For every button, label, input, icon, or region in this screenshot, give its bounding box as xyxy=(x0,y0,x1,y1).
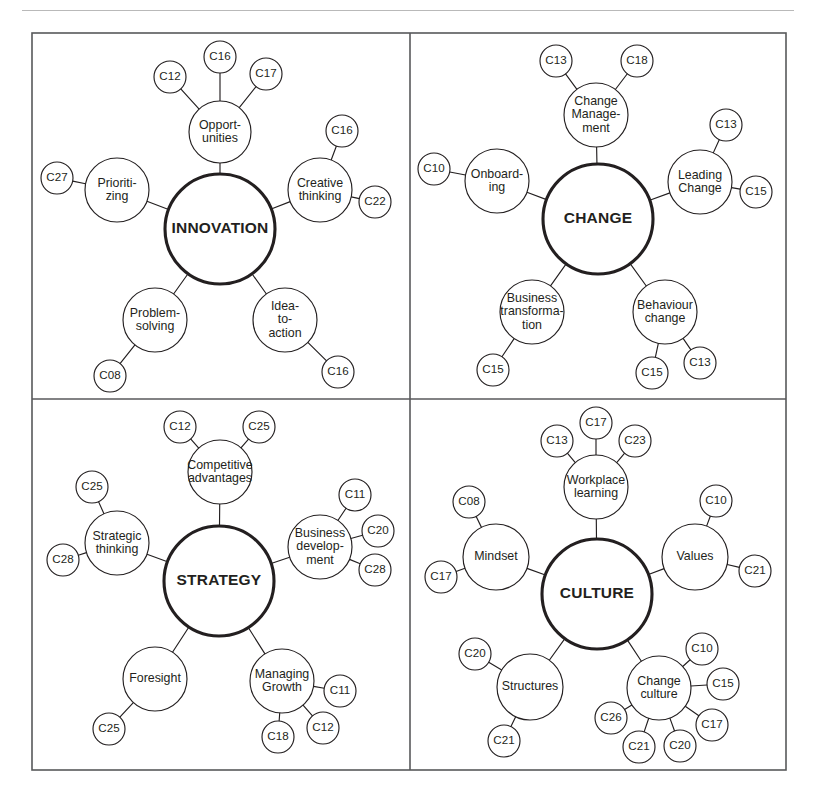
leaf-node-culture-4-0[interactable]: C08 xyxy=(453,486,485,518)
leaf-node-strategy-2-2[interactable]: C18 xyxy=(262,721,294,753)
leaf-node-innovation-2-0-label-line: C16 xyxy=(327,364,348,377)
branch-node-change-2-label-line: Behaviour xyxy=(637,298,693,312)
hub-node-strategy-label: STRATEGY xyxy=(177,571,262,588)
leaf-node-strategy-1-1[interactable]: C20 xyxy=(362,515,394,547)
leaf-node-culture-0-2[interactable]: C23 xyxy=(619,425,651,457)
branch-node-strategy-1[interactable]: Businessdevelop-ment xyxy=(288,515,352,579)
leaf-node-change-0-0[interactable]: C13 xyxy=(540,45,572,77)
leaf-node-culture-3-0-label: C20 xyxy=(464,646,485,659)
branch-node-change-4[interactable]: Onboard-ing xyxy=(465,149,529,213)
branch-node-culture-0[interactable]: Workplacelearning xyxy=(564,455,628,519)
leaf-node-culture-0-1-label: C17 xyxy=(585,415,606,428)
leaf-node-culture-2-3[interactable]: C20 xyxy=(664,730,696,762)
connector-branch-0-leaf-0 xyxy=(567,453,575,462)
leaf-node-culture-2-2[interactable]: C17 xyxy=(696,709,728,741)
branch-node-culture-4[interactable]: Mindset xyxy=(463,524,529,590)
leaf-node-change-3-0[interactable]: C15 xyxy=(477,354,509,386)
leaf-node-culture-2-5[interactable]: C26 xyxy=(595,702,627,734)
branch-node-strategy-3-label: Foresight xyxy=(129,671,181,685)
leaf-node-innovation-0-0-label-line: C12 xyxy=(159,69,180,82)
leaf-node-strategy-0-1[interactable]: C25 xyxy=(243,411,275,443)
branch-node-culture-2[interactable]: Changeculture xyxy=(627,656,691,720)
leaf-node-innovation-0-1[interactable]: C16 xyxy=(204,41,236,73)
hub-node-strategy[interactable]: STRATEGY xyxy=(164,526,274,636)
leaf-node-culture-0-0[interactable]: C13 xyxy=(541,425,573,457)
branch-node-culture-3[interactable]: Structures xyxy=(497,654,563,720)
leaf-node-change-1-1-label: C15 xyxy=(745,184,766,197)
leaf-node-change-1-0-label: C13 xyxy=(715,117,736,130)
leaf-node-culture-3-0[interactable]: C20 xyxy=(459,638,491,670)
branch-node-innovation-0[interactable]: Opport-unities xyxy=(189,101,251,163)
leaf-node-change-0-1-label-line: C18 xyxy=(626,53,647,66)
leaf-node-change-1-0-label-line: C13 xyxy=(715,117,736,130)
branch-node-culture-0-label-line: Workplace xyxy=(567,473,625,487)
leaf-node-strategy-3-0[interactable]: C25 xyxy=(93,713,125,745)
connector-branch-2-leaf-1 xyxy=(683,338,691,349)
hub-node-culture[interactable]: CULTURE xyxy=(542,539,652,649)
leaf-node-innovation-1-0[interactable]: C16 xyxy=(326,115,358,147)
branch-node-strategy-3[interactable]: Foresight xyxy=(123,647,187,711)
hub-node-change-label: CHANGE xyxy=(564,209,632,226)
branch-node-innovation-1[interactable]: Creativethinking xyxy=(288,158,352,222)
leaf-node-change-3-0-label: C15 xyxy=(482,362,503,375)
connector-branch-1-leaf-1 xyxy=(732,188,741,190)
connector-hub-to-innovation-branch-1 xyxy=(271,202,290,209)
branch-node-innovation-2[interactable]: Idea-to-action xyxy=(253,288,317,352)
leaf-node-strategy-1-2[interactable]: C28 xyxy=(359,554,391,586)
leaf-node-innovation-0-2[interactable]: C17 xyxy=(250,58,282,90)
leaf-node-change-1-1-label-line: C15 xyxy=(745,184,766,197)
hub-node-change-label-line: CHANGE xyxy=(564,209,632,226)
leaf-node-culture-0-0-label: C13 xyxy=(546,433,567,446)
connector-branch-3-leaf-0 xyxy=(120,703,134,718)
leaf-node-strategy-4-0[interactable]: C25 xyxy=(76,471,108,503)
branch-node-strategy-4[interactable]: Strategicthinking xyxy=(85,511,149,575)
connector-branch-1-leaf-1 xyxy=(351,197,359,199)
leaf-node-change-1-1[interactable]: C15 xyxy=(740,176,772,208)
leaf-node-innovation-1-1[interactable]: C22 xyxy=(359,186,391,218)
branch-node-strategy-2[interactable]: ManagingGrowth xyxy=(250,649,314,713)
hub-node-innovation[interactable]: INNOVATION xyxy=(165,174,275,284)
leaf-node-change-2-1[interactable]: C13 xyxy=(684,347,716,379)
branch-node-strategy-0[interactable]: Competitiveadvantages xyxy=(187,440,253,504)
leaf-node-culture-2-1[interactable]: C15 xyxy=(707,668,739,700)
leaf-node-strategy-2-1[interactable]: C12 xyxy=(307,712,339,744)
panel-strategy-nodes: C12C25C11C20C28C11C12C18C25C25C28Competi… xyxy=(47,411,394,753)
branch-node-change-1[interactable]: LeadingChange xyxy=(668,150,732,214)
leaf-node-strategy-4-1[interactable]: C28 xyxy=(47,544,79,576)
branch-node-innovation-3-label-line: solving xyxy=(136,319,175,333)
leaf-node-culture-0-1[interactable]: C17 xyxy=(580,407,612,439)
branch-node-change-4-label-line: Onboard- xyxy=(471,167,523,181)
leaf-node-innovation-3-0[interactable]: C08 xyxy=(94,360,126,392)
leaf-node-change-0-1-label: C18 xyxy=(626,53,647,66)
branch-node-culture-1[interactable]: Values xyxy=(662,524,728,590)
leaf-node-change-2-0[interactable]: C15 xyxy=(636,357,668,389)
leaf-node-culture-4-1[interactable]: C17 xyxy=(425,561,457,593)
leaf-node-innovation-0-0[interactable]: C12 xyxy=(154,61,186,93)
leaf-node-change-0-1[interactable]: C18 xyxy=(621,45,653,77)
leaf-node-culture-2-0[interactable]: C10 xyxy=(686,633,718,665)
leaf-node-strategy-2-0[interactable]: C11 xyxy=(324,675,356,707)
branch-node-innovation-0-label-line: unities xyxy=(202,131,238,145)
branch-node-change-3[interactable]: Businesstransforma-tion xyxy=(500,280,564,344)
hub-node-change[interactable]: CHANGE xyxy=(543,164,653,274)
connector-hub-to-culture-branch-3 xyxy=(549,639,565,661)
leaf-node-innovation-4-0[interactable]: C27 xyxy=(41,162,73,194)
connector-hub-to-culture-branch-2 xyxy=(627,640,641,661)
branch-node-change-1-label-line: Change xyxy=(678,181,722,195)
leaf-node-strategy-1-0[interactable]: C11 xyxy=(339,479,371,511)
leaf-node-culture-3-1[interactable]: C21 xyxy=(488,725,520,757)
leaf-node-strategy-0-0[interactable]: C12 xyxy=(164,411,196,443)
leaf-node-change-4-0[interactable]: C10 xyxy=(418,153,450,185)
leaf-node-culture-1-1[interactable]: C21 xyxy=(739,555,771,587)
branch-node-innovation-4[interactable]: Prioriti-zing xyxy=(85,158,149,222)
connector-hub-to-innovation-branch-3 xyxy=(174,274,188,294)
branch-node-innovation-3[interactable]: Problem-solving xyxy=(123,288,187,352)
leaf-node-change-1-0[interactable]: C13 xyxy=(710,109,742,141)
branch-node-innovation-3-label-line: Problem- xyxy=(130,306,180,320)
leaf-node-innovation-2-0-label: C16 xyxy=(327,364,348,377)
leaf-node-culture-2-4[interactable]: C21 xyxy=(623,731,655,763)
leaf-node-innovation-2-0[interactable]: C16 xyxy=(322,356,354,388)
branch-node-change-2[interactable]: Behaviourchange xyxy=(633,280,697,344)
leaf-node-culture-1-0[interactable]: C10 xyxy=(700,485,732,517)
branch-node-change-0[interactable]: ChangeManage-ment xyxy=(564,83,628,147)
